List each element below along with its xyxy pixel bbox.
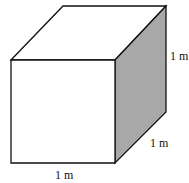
cube-diagram (0, 0, 189, 183)
depth-label: 1 m (150, 137, 168, 149)
width-label: 1 m (55, 169, 73, 181)
height-label: 1 m (170, 50, 188, 62)
cube-front-face (11, 60, 115, 163)
